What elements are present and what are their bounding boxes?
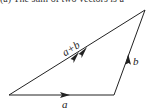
vector-a-label: a [62, 98, 68, 110]
vector-a-plus-b-label: a+b [60, 38, 82, 58]
vector-a: a [9, 92, 114, 110]
vector-a-plus-b: a+b [9, 10, 145, 95]
vector-diagram: a b a+b [0, 0, 154, 112]
arrowhead-icon [125, 54, 131, 65]
vector-b-label: b [133, 55, 139, 67]
vector-b: b [114, 10, 145, 95]
